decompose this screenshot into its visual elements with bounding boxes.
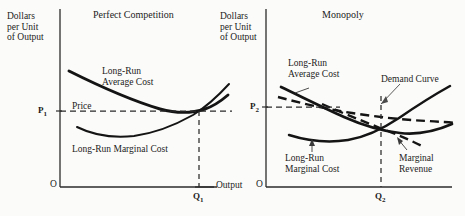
left-quantity-tick-label: Q1 bbox=[193, 191, 204, 205]
left-y-axis-title: Dollars per Unit of Output bbox=[7, 11, 44, 43]
left-lrac-label: Long-Run Average Cost bbox=[102, 66, 153, 87]
right-lrac-label: Long-Run Average Cost bbox=[288, 58, 339, 79]
left-origin-label: O bbox=[50, 179, 57, 190]
right-demand-curve-label: Demand Curve bbox=[381, 74, 439, 85]
left-price-tick-label: P1 bbox=[38, 105, 47, 119]
right-y-axis-title: Dollars per Unit of Output bbox=[220, 11, 257, 43]
left-x-axis-label: Output bbox=[216, 180, 242, 191]
left-price-label: Price bbox=[72, 101, 92, 112]
left-long-run-marginal-cost-curve bbox=[77, 84, 229, 137]
left-lrmc-label: Long-Run Marginal Cost bbox=[72, 144, 168, 155]
right-origin-label: O bbox=[256, 179, 263, 190]
left-panel-title: Perfect Competition bbox=[93, 9, 174, 20]
economics-diagram: Dollars per Unit of Output Perfect Compe… bbox=[0, 0, 465, 216]
right-lrmc-label: Long-Run Marginal Cost bbox=[285, 153, 339, 174]
panel-perfect-competition bbox=[56, 9, 232, 187]
right-demand-curve bbox=[278, 97, 456, 123]
right-marginal-revenue-label: Marginal Revenue bbox=[399, 153, 434, 174]
right-price-tick-label: P2 bbox=[250, 101, 259, 115]
right-long-run-average-cost-curve bbox=[281, 87, 452, 134]
right-quantity-tick-label: Q2 bbox=[375, 191, 386, 205]
right-lrac-leader-line bbox=[295, 88, 309, 93]
right-panel-title: Monopoly bbox=[322, 9, 364, 20]
